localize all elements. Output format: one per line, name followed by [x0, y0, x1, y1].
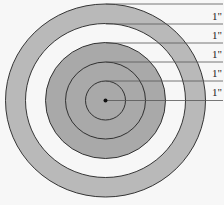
- target-diagram: 1" 1" 1" 1" 1": [0, 0, 224, 205]
- label-1: 1": [212, 10, 222, 22]
- label-4: 1": [212, 67, 222, 79]
- label-5: 1": [212, 86, 222, 98]
- center-dot: [104, 99, 108, 103]
- dimension-labels: 1" 1" 1" 1" 1": [212, 10, 222, 98]
- label-2: 1": [212, 29, 222, 41]
- label-3: 1": [212, 48, 222, 60]
